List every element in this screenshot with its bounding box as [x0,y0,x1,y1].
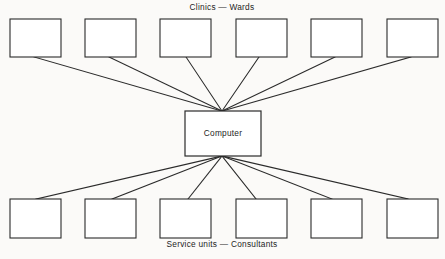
clinic-ward-2-box[interactable] [85,19,136,57]
clinic-ward-3-box[interactable] [160,19,211,57]
computer-label: Computer [204,128,242,138]
clinic-ward-4-box[interactable] [236,19,287,57]
service-unit-3-box[interactable] [160,199,211,238]
network-diagram: Computer Clinics — Wards Service units —… [0,0,445,259]
clinic-ward-5-box[interactable] [311,19,362,57]
clinic-ward-1-box[interactable] [10,19,61,57]
clinic-ward-1-link [34,57,222,111]
service-unit-5-box[interactable] [311,199,362,238]
bottom-connection-lines [36,156,408,199]
hub-node[interactable]: Computer [185,111,261,156]
clinic-ward-4-link [222,57,259,111]
top-connection-lines [34,57,411,111]
service-unit-4-box[interactable] [236,199,287,238]
service-unit-6-box[interactable] [387,199,438,238]
top-node-boxes [10,19,438,57]
clinic-ward-6-box[interactable] [387,19,438,57]
bottom-node-boxes [10,199,438,238]
bottom-caption-label: Service units — Consultants [167,239,278,249]
service-unit-1-box[interactable] [10,199,61,238]
diagram-canvas: Computer Clinics — Wards Service units —… [0,0,445,259]
clinic-ward-6-link [222,57,411,111]
top-caption-label: Clinics — Wards [190,2,255,12]
service-unit-2-box[interactable] [85,199,136,238]
clinic-ward-2-link [109,57,222,111]
